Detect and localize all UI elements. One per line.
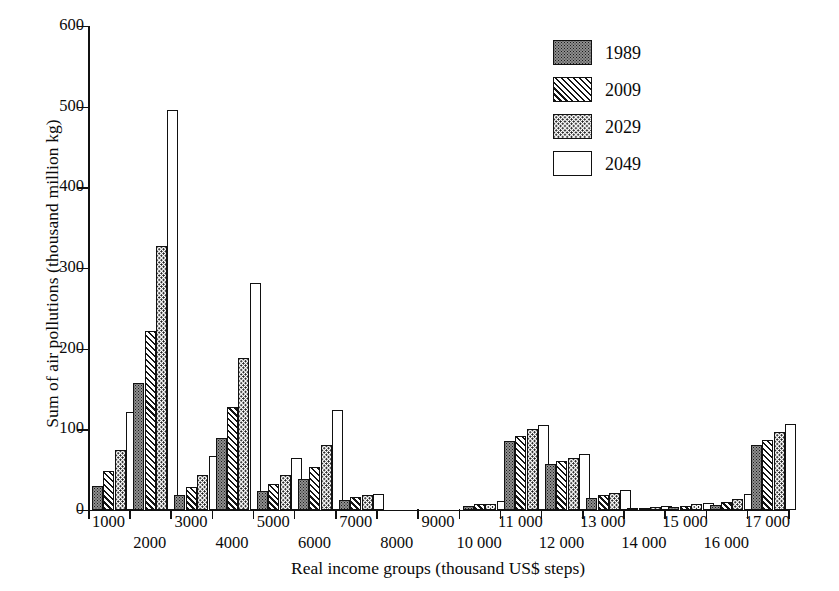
legend-item: 2029 — [553, 108, 641, 145]
x-axis-tick-label: 16 000 — [704, 533, 749, 553]
bar — [339, 500, 350, 510]
legend-swatch — [553, 114, 592, 139]
x-axis-tick-mark — [129, 509, 131, 519]
y-axis-tick-label: 600 — [59, 15, 84, 35]
bar — [515, 436, 526, 510]
bar-group — [174, 26, 219, 510]
y-axis-tick-label: 200 — [59, 338, 84, 358]
bar — [732, 499, 743, 510]
x-axis-title: Real income groups (thousand US$ steps) — [88, 558, 788, 579]
bar — [668, 507, 679, 510]
bar-group — [298, 26, 343, 510]
bar — [174, 495, 185, 510]
bar — [145, 331, 156, 510]
bar — [609, 493, 620, 510]
bar — [268, 484, 279, 510]
x-axis-tick-label: 9000 — [422, 512, 455, 532]
bar-group — [710, 26, 755, 510]
bar — [280, 475, 291, 510]
y-axis-tick-label: 500 — [59, 96, 84, 116]
bar — [710, 505, 721, 510]
bar — [527, 429, 538, 510]
legend-swatch — [553, 40, 592, 65]
legend-label: 2029 — [605, 118, 641, 136]
bar — [156, 246, 167, 510]
legend-label: 2049 — [605, 155, 641, 173]
x-axis-tick-label: 17 000 — [745, 512, 790, 532]
bar-group — [92, 26, 137, 510]
bar — [650, 507, 661, 510]
bar — [586, 498, 597, 510]
bar — [103, 471, 114, 510]
bar — [474, 504, 485, 510]
x-axis-tick-mark — [294, 509, 296, 519]
x-axis-tick-label: 5000 — [257, 512, 290, 532]
bar — [133, 383, 144, 510]
y-axis-tick-label: 300 — [59, 257, 84, 277]
bar-group — [216, 26, 261, 510]
x-axis-tick-label: 7000 — [339, 512, 372, 532]
y-axis-tick-label: 100 — [59, 418, 84, 438]
bar — [774, 432, 785, 510]
bar — [115, 450, 126, 511]
bar — [186, 487, 197, 510]
bar — [197, 475, 208, 510]
x-axis-tick-label: 11 000 — [498, 512, 543, 532]
bar-group — [257, 26, 302, 510]
bar — [227, 407, 238, 510]
bar — [485, 504, 496, 510]
bar — [504, 441, 515, 510]
bar — [691, 504, 702, 510]
x-axis-tick-mark — [170, 509, 172, 519]
bar — [627, 508, 638, 510]
plot-area: 0100200300400500600 — [88, 26, 788, 510]
bar — [639, 508, 650, 510]
bar — [257, 491, 268, 510]
x-axis-tick-label: 14 000 — [621, 533, 666, 553]
bar — [321, 445, 332, 510]
bar — [238, 358, 249, 510]
bar — [463, 506, 474, 510]
x-axis-tick-mark — [88, 509, 90, 519]
x-axis-tick-label: 13 000 — [580, 512, 625, 532]
bar — [216, 438, 227, 510]
bar — [680, 506, 691, 510]
legend-swatch — [553, 151, 592, 176]
bar — [568, 458, 579, 510]
bar-group — [339, 26, 384, 510]
bar-group — [751, 26, 796, 510]
bar — [598, 495, 609, 510]
bar-group — [380, 26, 425, 510]
bar — [350, 497, 361, 510]
x-axis-tick-mark — [212, 509, 214, 519]
bar-group — [463, 26, 508, 510]
bar — [556, 461, 567, 510]
legend-item: 2049 — [553, 145, 641, 182]
bar — [751, 445, 762, 510]
legend-item: 2009 — [553, 71, 641, 108]
bar — [545, 464, 556, 510]
x-axis-tick-mark — [417, 509, 419, 519]
x-axis-tick-mark — [253, 509, 255, 519]
bar-group — [133, 26, 178, 510]
x-axis-tick-mark — [459, 509, 461, 519]
bar-group — [668, 26, 713, 510]
x-axis-tick-label: 1000 — [92, 512, 125, 532]
x-axis-tick-mark — [335, 509, 337, 519]
legend-swatch — [553, 77, 592, 102]
bar — [785, 424, 796, 510]
y-axis-tick-label: 400 — [59, 176, 84, 196]
legend: 1989200920292049 — [553, 34, 641, 182]
x-axis-tick-label: 10 000 — [456, 533, 501, 553]
bar — [362, 495, 373, 510]
bar-group — [504, 26, 549, 510]
x-axis-tick-label: 3000 — [174, 512, 207, 532]
x-axis-tick-label: 12 000 — [539, 533, 584, 553]
x-axis-tick-label: 4000 — [216, 533, 249, 553]
bar — [92, 486, 103, 510]
bar — [309, 467, 320, 510]
bar-chart: Sum of air pollutions (thousand million … — [0, 0, 839, 591]
bar — [762, 440, 773, 510]
legend-label: 2009 — [605, 81, 641, 99]
x-axis-tick-label: 15 000 — [662, 512, 707, 532]
